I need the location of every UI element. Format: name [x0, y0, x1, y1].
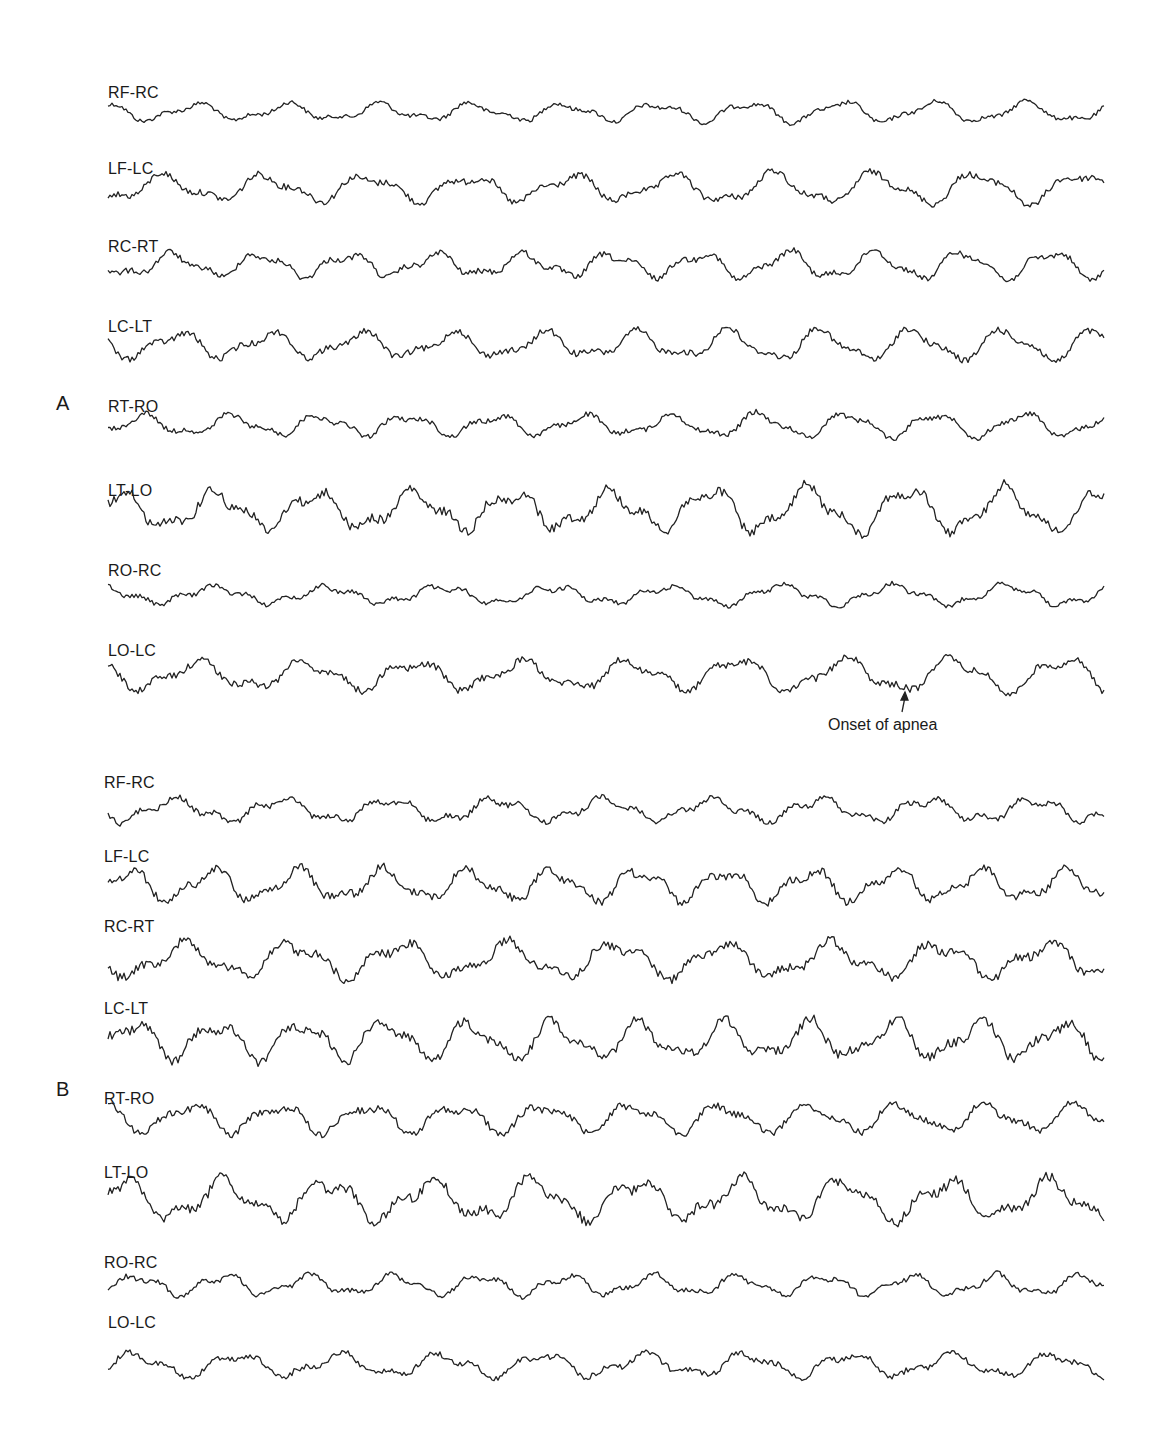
trace-b-rt-ro	[108, 1101, 1104, 1138]
trace-b-lt-lo	[108, 1172, 1104, 1227]
eeg-traces	[0, 0, 1167, 1455]
trace-a-ro-rc	[108, 581, 1104, 608]
trace-a-rc-rt	[108, 248, 1104, 282]
trace-b-rc-rt	[108, 936, 1104, 983]
trace-b-lc-lt	[108, 1015, 1104, 1066]
trace-b-lo-lc	[108, 1350, 1104, 1381]
trace-a-rf-rc	[108, 99, 1104, 125]
trace-a-rt-ro	[108, 409, 1104, 440]
trace-b-ro-rc	[108, 1271, 1104, 1299]
trace-a-lt-lo	[108, 480, 1104, 539]
apnea-arrow-icon	[901, 692, 908, 712]
trace-b-lf-lc	[108, 863, 1104, 906]
trace-a-lc-lt	[108, 327, 1104, 363]
trace-b-rf-rc	[108, 795, 1104, 827]
trace-a-lo-lc	[108, 655, 1104, 696]
wave-group	[108, 99, 1104, 1381]
trace-a-lf-lc	[108, 169, 1104, 207]
